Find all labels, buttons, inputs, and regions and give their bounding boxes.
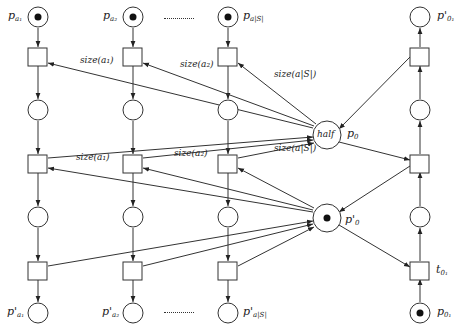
arc-label-size-aS-row1: size(a|S|) (274, 70, 316, 79)
label-p-prime-a2: p'a₂ (102, 306, 119, 319)
label-p-a2: pa₂ (103, 10, 117, 23)
place-a1-mid2 (28, 207, 48, 227)
token-icon (225, 14, 232, 21)
arc-label-size-aS-row2: size(a|S|) (274, 144, 316, 153)
label-p0: p0 (347, 128, 359, 141)
place-a2-mid2 (123, 207, 143, 227)
place-aS-mid1 (218, 100, 238, 120)
label-p0-prime-1: p'0₁ (437, 10, 454, 23)
petri-net-diagram (0, 0, 462, 327)
place-p-prime-a2 (123, 303, 143, 323)
label-p-01: p0₁ (437, 306, 451, 319)
label-p-a1: pa₁ (8, 10, 22, 23)
place-p-prime-a1 (28, 303, 48, 323)
ellipsis-bottom (164, 312, 194, 313)
arc-label-size-a1-row1: size(a₁) (80, 56, 114, 65)
place-a1-mid1 (28, 100, 48, 120)
arc-label-size-a1-row2: size(a₁) (76, 153, 110, 162)
place-p0-prime-1 (410, 7, 430, 27)
arc-label-size-a2-row1: size(a₂) (180, 60, 214, 69)
label-half: half (317, 130, 334, 139)
transition-a2-row1 (123, 48, 142, 66)
token-icon (130, 14, 137, 21)
transition-aS-row3 (218, 262, 237, 280)
label-p-aS: pa|S| (243, 10, 264, 23)
ellipsis-top (164, 18, 194, 19)
transition-a1-row2 (28, 155, 47, 173)
place-right-mid2 (410, 207, 430, 227)
transition-aS-row2 (218, 155, 237, 173)
transition-a2-row2 (123, 155, 142, 173)
place-right-mid1 (410, 100, 430, 120)
label-p-prime-a1: p'a₁ (7, 306, 24, 319)
label-t01: t0₁ (436, 264, 448, 277)
place-aS-mid2 (218, 207, 238, 227)
label-p-prime-aS: p'a|S| (243, 306, 267, 319)
token-icon (324, 215, 331, 222)
transition-a1-row3 (28, 262, 47, 280)
token-icon (35, 14, 42, 21)
transition-aS-row1 (218, 48, 237, 66)
transition-a2-row3 (123, 262, 142, 280)
place-a2-mid1 (123, 100, 143, 120)
transition-a1-row1 (28, 48, 47, 66)
token-icon (417, 310, 424, 317)
label-p0-prime: p'0 (345, 214, 360, 227)
transition-right-row2 (410, 155, 429, 173)
arc-label-size-a2-row2: size(a₂) (174, 149, 208, 158)
transition-right-row1 (410, 48, 429, 66)
transition-t01 (410, 262, 429, 280)
place-p-prime-aS (218, 303, 238, 323)
